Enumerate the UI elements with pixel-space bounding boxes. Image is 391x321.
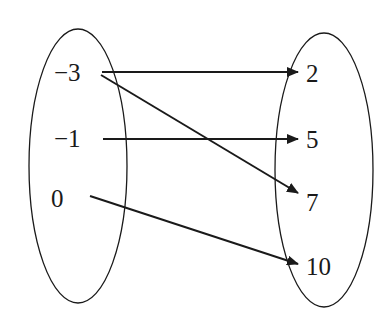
mapping-diagram: −3 −1 0 2 5 7 10 (0, 0, 391, 321)
range-element-2: 2 (306, 61, 319, 86)
arrow-neg3-to-7 (101, 75, 298, 193)
domain-element-0: 0 (51, 186, 64, 211)
domain-element-neg1: −1 (54, 126, 81, 151)
range-element-7: 7 (306, 190, 319, 215)
diagram-canvas (0, 0, 391, 321)
domain-element-neg3: −3 (54, 60, 81, 85)
range-element-10: 10 (306, 254, 331, 279)
range-element-5: 5 (306, 127, 319, 152)
